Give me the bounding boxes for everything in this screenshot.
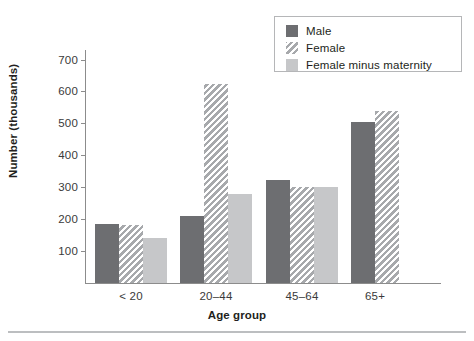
y-axis-tick-labels: 100200300400500600700	[40, 50, 78, 284]
y-tick-label: 300	[58, 181, 78, 193]
legend-swatch-icon	[286, 59, 298, 71]
bar-group	[266, 50, 338, 283]
chart-legend: MaleFemaleFemale minus maternity	[274, 16, 462, 72]
bar-group	[180, 50, 252, 283]
x-axis-line	[85, 283, 441, 284]
x-tick-label: 20–44	[200, 290, 233, 302]
footer-divider	[8, 331, 466, 333]
bar	[228, 194, 252, 283]
x-tick-label: 45–64	[286, 290, 319, 302]
y-tick-label: 200	[58, 213, 78, 225]
bar	[95, 224, 119, 283]
legend-swatch-icon	[286, 25, 298, 37]
x-tick-label: < 20	[119, 290, 143, 302]
legend-item: Female minus maternity	[286, 57, 461, 72]
y-tick-label: 600	[58, 85, 78, 97]
bar	[119, 225, 143, 283]
x-tick-label: 65+	[365, 290, 385, 302]
bar	[314, 187, 338, 283]
legend-item: Female	[286, 40, 461, 55]
x-axis-title: Age group	[0, 309, 474, 321]
y-tick-label: 100	[58, 245, 78, 257]
legend-swatch-icon	[286, 42, 298, 54]
bar-group	[95, 50, 167, 283]
y-axis-title: Number (thousands)	[7, 64, 19, 178]
legend-item: Male	[286, 23, 461, 38]
bar-chart: Number (thousands) 100200300400500600700…	[0, 0, 474, 341]
bar	[375, 111, 399, 283]
bar	[351, 122, 375, 283]
bar	[180, 216, 204, 283]
bar	[204, 84, 228, 283]
legend-label: Female	[306, 42, 345, 54]
plot-area	[85, 50, 440, 283]
y-tick-label: 400	[58, 149, 78, 161]
bar	[290, 187, 314, 283]
y-tick-label: 500	[58, 117, 78, 129]
bar	[143, 238, 167, 283]
y-tick-label: 700	[58, 54, 78, 66]
legend-label: Male	[306, 25, 332, 37]
bar	[266, 180, 290, 283]
bar-group	[351, 50, 423, 283]
legend-label: Female minus maternity	[306, 59, 432, 71]
